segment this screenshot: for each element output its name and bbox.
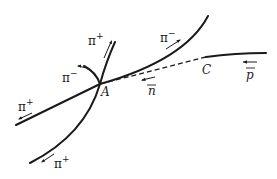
antineutron-label: n (148, 84, 156, 98)
antiproton-track (206, 53, 266, 57)
pi-plus-left-label: π+ (18, 97, 33, 114)
vertex-c-label: C (202, 63, 211, 77)
pi-minus-upper-right-label: π− (160, 28, 175, 45)
pi-plus-up-label: π+ (88, 31, 103, 48)
pi-minus-short-track (84, 66, 100, 84)
antiproton-direction-arrow (243, 60, 257, 64)
track-diagram: p C n π− π+ π− (0, 0, 277, 179)
vertex-a-label: A (100, 85, 110, 99)
pi-minus-upper-right-track (100, 16, 208, 84)
pi-plus-up-track (100, 42, 115, 84)
pi-plus-down-track (30, 84, 100, 163)
pi-minus-short-label: π− (62, 68, 77, 85)
pi-plus-down-label: π+ (54, 154, 69, 171)
track-diagram-svg: p C n π− π+ π− (0, 0, 277, 179)
antineutron-direction-arrow (141, 77, 155, 81)
antiproton-label: p (246, 68, 254, 82)
pi-plus-up-arrow (104, 40, 112, 58)
